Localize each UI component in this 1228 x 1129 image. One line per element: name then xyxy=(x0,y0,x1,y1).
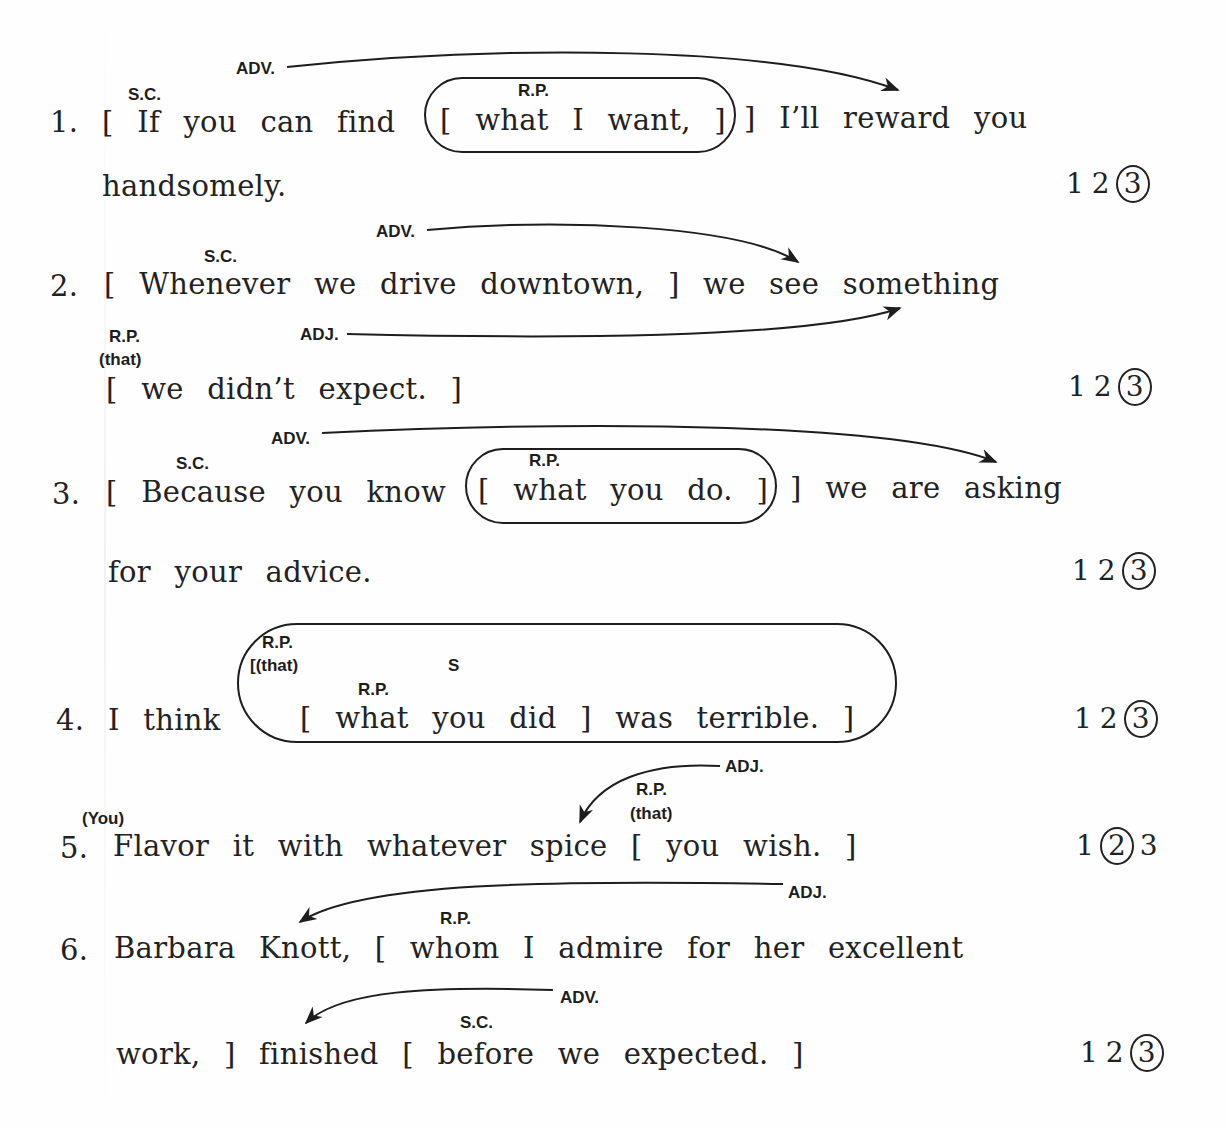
sentence-line-1: [ If you can find xyxy=(102,108,395,137)
sentence-line-1: I think xyxy=(108,706,221,735)
answer-choices: 123 xyxy=(1074,700,1158,738)
choice-2[interactable]: 2 xyxy=(1098,557,1116,585)
choice-3[interactable]: 3 xyxy=(1140,832,1158,860)
choice-1[interactable]: 1 xyxy=(1066,170,1084,198)
sentence-line-2: for your advice. xyxy=(108,558,372,587)
answer-choices: 123 xyxy=(1066,165,1150,203)
choice-3-circled[interactable]: 3 xyxy=(1122,552,1156,590)
choice-1[interactable]: 1 xyxy=(1072,557,1090,585)
adj-arrow-6 xyxy=(300,883,783,922)
item-number: 1. xyxy=(50,108,78,137)
rp-label: R.P. xyxy=(518,82,549,99)
sentence-line-2: work, ] finished [ before we expected. ] xyxy=(116,1040,804,1069)
boxed-clause: [ what you do. ] xyxy=(478,476,768,505)
choice-3-circled[interactable]: 3 xyxy=(1118,368,1152,406)
answer-choices: 123 xyxy=(1068,368,1152,406)
rp-label: R.P. xyxy=(529,452,560,469)
sentence-line-1: Barbara Knott, [ whom I admire for her e… xyxy=(114,934,964,963)
choice-1[interactable]: 1 xyxy=(1074,705,1092,733)
sentence-line-1: [ Whenever we drive downtown, ] we see s… xyxy=(104,270,999,299)
sentence-line-2: [ we didn’t expect. ] xyxy=(106,375,462,404)
answer-choices: 123 xyxy=(1080,1034,1164,1072)
answer-choices: 123 xyxy=(1076,827,1166,865)
adv-label: ADV. xyxy=(560,989,599,1006)
rp-inner-label: R.P. xyxy=(358,681,389,698)
sentence-line-1: Flavor it with whatever spice [ you wish… xyxy=(113,832,857,861)
adj-label: ADJ. xyxy=(788,884,827,901)
subject-label: S xyxy=(448,657,459,674)
rp-label: R.P. xyxy=(109,328,140,345)
rp-implied-label: (that) xyxy=(630,805,672,822)
choice-2[interactable]: 2 xyxy=(1094,373,1112,401)
adv-arrow-2 xyxy=(427,225,798,262)
rp-label: R.P. xyxy=(440,910,471,927)
boxed-clause: [ what I want, ] xyxy=(440,106,726,135)
adj-arrow-2 xyxy=(347,308,900,336)
sc-label: S.C. xyxy=(460,1014,493,1031)
choice-3-circled[interactable]: 3 xyxy=(1116,165,1150,203)
item-number: 2. xyxy=(50,272,78,301)
sc-label: S.C. xyxy=(176,455,209,472)
answer-choices: 123 xyxy=(1072,552,1156,590)
rp-outer-implied-label: [(that) xyxy=(250,657,298,674)
adj-label: ADJ. xyxy=(725,758,764,775)
sentence-line-1-rest: ] I’ll reward you xyxy=(744,104,1027,133)
sc-label: S.C. xyxy=(128,86,161,103)
adv-arrow-3 xyxy=(322,426,996,462)
adv-arrow-1 xyxy=(287,53,898,90)
adv-arrow-6 xyxy=(306,989,553,1023)
rp-implied-label: (that) xyxy=(99,351,141,368)
sc-label: S.C. xyxy=(204,248,237,265)
adv-label: ADV. xyxy=(376,223,415,240)
choice-3-circled[interactable]: 3 xyxy=(1130,1034,1164,1072)
item-number: 6. xyxy=(60,936,88,965)
item-number: 4. xyxy=(56,706,84,735)
adv-label: ADV. xyxy=(236,60,275,77)
choice-3-circled[interactable]: 3 xyxy=(1124,700,1158,738)
item-number: 3. xyxy=(52,480,80,509)
sentence-line-1-rest: ] we are asking xyxy=(790,474,1062,503)
rp-label: R.P. xyxy=(636,781,667,798)
implied-subject-label: (You) xyxy=(82,810,124,827)
rp-outer-label: R.P. xyxy=(262,634,293,651)
item-number: 5. xyxy=(60,834,88,863)
boxed-clause: [ what you did ] was terrible. ] xyxy=(300,704,854,733)
choice-2[interactable]: 2 xyxy=(1092,170,1110,198)
choice-1[interactable]: 1 xyxy=(1080,1039,1098,1067)
choice-1[interactable]: 1 xyxy=(1076,832,1094,860)
adj-label: ADJ. xyxy=(300,326,339,343)
choice-2[interactable]: 2 xyxy=(1106,1039,1124,1067)
sentence-line-2: handsomely. xyxy=(102,172,287,201)
worksheet-page: ADV. S.C. R.P. 1. [ If you can find [ wh… xyxy=(0,0,1228,1129)
choice-2[interactable]: 2 xyxy=(1100,705,1118,733)
choice-1[interactable]: 1 xyxy=(1068,373,1086,401)
choice-2-circled[interactable]: 2 xyxy=(1100,827,1134,865)
adv-label: ADV. xyxy=(271,430,310,447)
sentence-line-1: [ Because you know xyxy=(106,478,446,507)
